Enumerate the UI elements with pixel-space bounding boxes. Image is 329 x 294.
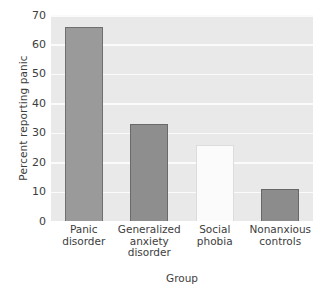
- x-axis-tick-label: Nonanxiouscontrols: [240, 224, 322, 247]
- bar: [261, 189, 299, 221]
- x-axis-tick-label-line: controls: [240, 236, 322, 248]
- x-axis-tick-labels: PanicdisorderGeneralizedanxietydisorderS…: [51, 224, 313, 270]
- plot-area: [51, 15, 313, 221]
- y-axis-tick-label: 30: [20, 127, 46, 138]
- y-axis-tick-label: 50: [20, 68, 46, 79]
- bar: [130, 124, 168, 221]
- y-axis-tick-label: 20: [20, 157, 46, 168]
- x-axis-tick-label-line: Nonanxious: [240, 224, 322, 236]
- bar-series: [51, 15, 313, 221]
- y-axis-tick-label: 40: [20, 98, 46, 109]
- y-axis-tick-label: 70: [20, 10, 46, 21]
- bar-chart-figure: Percent reporting panic 010203040506070 …: [0, 0, 329, 294]
- y-axis-tick-label: 10: [20, 186, 46, 197]
- y-axis-tick-label: 60: [20, 39, 46, 50]
- x-axis-tick-label-line: disorder: [109, 247, 191, 259]
- y-axis-tick-labels: 010203040506070: [18, 0, 46, 294]
- bar: [196, 145, 234, 222]
- bar: [65, 27, 103, 221]
- x-axis-title: Group: [51, 272, 313, 284]
